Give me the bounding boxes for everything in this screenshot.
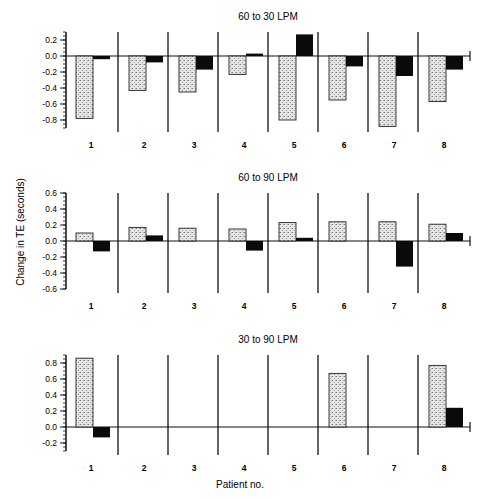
x-tick-label: 3 (192, 301, 197, 311)
bar-stippled (279, 56, 296, 120)
panel-title: 60 to 90 LPM (238, 172, 297, 183)
x-tick-label: 7 (392, 140, 397, 150)
bar-solid (396, 56, 413, 76)
y-tick-label: 0.6 (45, 374, 57, 384)
bar-solid (93, 56, 110, 59)
y-axis-label: Change in TE (seconds) (15, 178, 26, 286)
x-tick-label: 4 (242, 463, 247, 473)
panel-3: 30 to 90 LPM0.80.60.40.20.0-0.212345678 (42, 334, 470, 473)
bar-solid (446, 233, 463, 241)
y-tick-label: -0.2 (42, 67, 57, 77)
x-tick-label: 2 (142, 140, 147, 150)
bar-stippled (179, 228, 196, 241)
bar-stippled (179, 56, 196, 92)
bar-solid (396, 241, 413, 267)
bar-stippled (429, 365, 446, 427)
bar-solid (146, 56, 163, 62)
x-tick-label: 6 (342, 301, 347, 311)
y-tick-label: 0.2 (45, 35, 57, 45)
bar-solid (93, 241, 110, 251)
bar-stippled (229, 56, 246, 74)
bar-solid (346, 56, 363, 66)
bar-stippled (329, 222, 346, 241)
x-tick-label: 5 (292, 463, 297, 473)
bar-stippled (76, 233, 93, 241)
bar-solid (246, 241, 263, 251)
x-tick-label: 4 (242, 140, 247, 150)
panel-title: 60 to 30 LPM (238, 11, 297, 22)
y-tick-label: -0.6 (42, 284, 57, 294)
x-tick-label: 6 (342, 140, 347, 150)
x-tick-label: 8 (442, 463, 447, 473)
bar-stippled (329, 373, 346, 427)
x-tick-label: 3 (192, 140, 197, 150)
bar-stippled (329, 56, 346, 100)
bar-solid (246, 54, 263, 56)
x-tick-label: 7 (392, 301, 397, 311)
y-tick-label: 0.2 (45, 406, 57, 416)
y-tick-label: -0.8 (42, 115, 57, 125)
bar-stippled (429, 56, 446, 102)
x-tick-label: 5 (292, 301, 297, 311)
x-tick-label: 6 (342, 463, 347, 473)
bar-solid (296, 34, 313, 56)
bar-stippled (76, 358, 93, 427)
y-tick-label: -0.2 (42, 438, 57, 448)
y-tick-label: -0.4 (42, 83, 57, 93)
bar-solid (446, 408, 463, 427)
bar-stippled (229, 229, 246, 241)
y-tick-label: -0.6 (42, 99, 57, 109)
x-axis-label: Patient no. (216, 479, 264, 490)
y-tick-label: 0.4 (45, 390, 57, 400)
x-tick-label: 1 (89, 140, 94, 150)
panel-title: 30 to 90 LPM (238, 334, 297, 345)
chart-figure: 60 to 30 LPM0.20.0-0.2-0.4-0.6-0.8123456… (0, 0, 483, 499)
bar-solid (146, 235, 163, 241)
x-tick-label: 2 (142, 463, 147, 473)
panel-1: 60 to 30 LPM0.20.0-0.2-0.4-0.6-0.8123456… (42, 11, 470, 150)
y-tick-label: -0.4 (42, 268, 57, 278)
bar-stippled (279, 223, 296, 241)
y-tick-label: 0.0 (45, 422, 57, 432)
bar-solid (196, 56, 213, 70)
y-tick-label: -0.2 (42, 252, 57, 262)
x-tick-label: 3 (192, 463, 197, 473)
panel-2: 60 to 90 LPM0.60.40.20.0-0.2-0.4-0.61234… (42, 172, 470, 311)
bar-stippled (429, 224, 446, 241)
x-tick-label: 1 (89, 301, 94, 311)
y-tick-label: 0.0 (45, 51, 57, 61)
bar-stippled (76, 56, 93, 118)
bar-stippled (379, 56, 396, 126)
x-tick-label: 2 (142, 301, 147, 311)
bar-solid (296, 238, 313, 241)
x-tick-label: 7 (392, 463, 397, 473)
x-tick-label: 8 (442, 140, 447, 150)
y-tick-label: 0.0 (45, 236, 57, 246)
x-tick-label: 1 (89, 463, 94, 473)
y-tick-label: 0.2 (45, 220, 57, 230)
x-tick-label: 8 (442, 301, 447, 311)
x-tick-label: 4 (242, 301, 247, 311)
y-tick-label: 0.6 (45, 188, 57, 198)
bar-stippled (379, 222, 396, 241)
bar-stippled (129, 227, 146, 241)
bar-solid (93, 427, 110, 437)
y-tick-label: 0.4 (45, 204, 57, 214)
bar-stippled (129, 56, 146, 90)
x-tick-label: 5 (292, 140, 297, 150)
y-tick-label: 0.8 (45, 358, 57, 368)
bar-solid (446, 56, 463, 70)
